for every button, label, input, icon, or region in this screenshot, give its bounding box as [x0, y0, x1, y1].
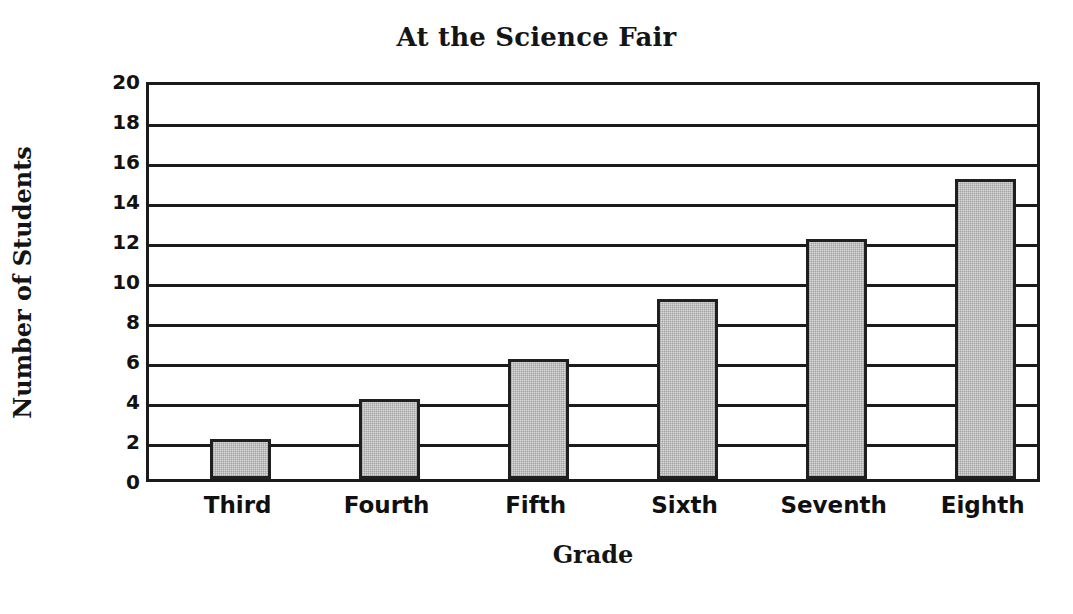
bar	[657, 299, 718, 479]
bar	[210, 439, 271, 479]
x-axis-tick-label: Eighth	[941, 492, 1025, 518]
x-axis-tick-label: Third	[204, 492, 272, 518]
gridline	[149, 244, 1037, 247]
y-axis-tick-labels: 02468101214161820	[84, 82, 140, 482]
y-axis-title-container: Number of Students	[2, 82, 42, 482]
gridline	[149, 324, 1037, 327]
bar	[508, 359, 569, 479]
gridline	[149, 364, 1037, 367]
x-axis-tick-label: Fifth	[505, 492, 566, 518]
y-axis-tick-label: 4	[88, 390, 140, 414]
y-axis-tick-label: 12	[88, 230, 140, 254]
x-axis-tick-labels: ThirdFourthFifthSixthSeventhEighth	[146, 492, 1040, 532]
plot-area	[146, 82, 1040, 482]
x-axis-title: Grade	[146, 540, 1040, 569]
y-axis-tick-label: 10	[88, 270, 140, 294]
x-axis-tick-label: Fourth	[344, 492, 430, 518]
gridline	[149, 284, 1037, 287]
y-axis-tick-label: 8	[88, 310, 140, 334]
x-axis-tick-label: Sixth	[651, 492, 718, 518]
gridline	[149, 404, 1037, 407]
gridline	[149, 444, 1037, 447]
y-axis-tick-label: 18	[88, 110, 140, 134]
y-axis-tick-label: 14	[88, 190, 140, 214]
x-axis-tick-label: Seventh	[780, 492, 887, 518]
chart-title: At the Science Fair	[0, 22, 1073, 52]
y-axis-tick-label: 0	[88, 470, 140, 494]
y-axis-tick-label: 2	[88, 430, 140, 454]
bar-chart-figure: At the Science Fair Number of Students 0…	[0, 0, 1073, 614]
bar	[359, 399, 420, 479]
y-axis-title: Number of Students	[8, 146, 37, 418]
gridline	[149, 124, 1037, 127]
gridline	[149, 204, 1037, 207]
bar	[955, 179, 1016, 479]
gridline	[149, 164, 1037, 167]
plot-inner	[149, 85, 1037, 479]
y-axis-tick-label: 6	[88, 350, 140, 374]
y-axis-tick-label: 16	[88, 150, 140, 174]
y-axis-tick-label: 20	[88, 70, 140, 94]
bar	[806, 239, 867, 479]
